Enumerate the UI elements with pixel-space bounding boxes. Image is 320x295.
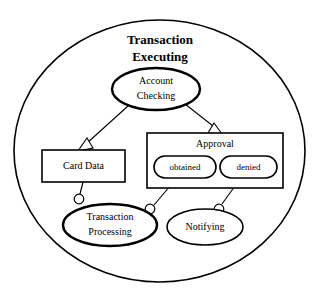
- transaction-processing-label-line2: Processing: [88, 226, 131, 237]
- diagram-title-line1: Transaction: [127, 32, 194, 47]
- transaction-processing-label-line1: Transaction: [87, 211, 134, 222]
- card-data-label: Card Data: [63, 160, 104, 171]
- account-checking-label-line2: Checking: [137, 90, 175, 101]
- node-obtained[interactable]: obtained: [154, 156, 216, 178]
- account-checking-shape[interactable]: [112, 68, 200, 110]
- transaction-processing-shape[interactable]: [63, 204, 157, 246]
- approval-label: Approval: [196, 138, 234, 149]
- node-denied[interactable]: denied: [220, 156, 277, 178]
- account-checking-label-line1: Account: [139, 75, 173, 86]
- node-notifying[interactable]: Notifying: [167, 209, 243, 245]
- node-card-data[interactable]: Card Data: [42, 150, 125, 182]
- notifying-label: Notifying: [186, 221, 225, 232]
- denied-label: denied: [237, 162, 261, 172]
- ball-socket-icon: [74, 194, 84, 204]
- diagram-title-line2: Executing: [132, 49, 188, 64]
- node-transaction-processing[interactable]: Transaction Processing: [63, 204, 157, 246]
- diagram-root: Transaction Executing: [0, 0, 320, 295]
- node-approval[interactable]: Approval obtained denied: [147, 133, 283, 188]
- node-account-checking[interactable]: Account Checking: [112, 68, 200, 110]
- diagram-canvas: Transaction Executing: [0, 0, 320, 295]
- obtained-label: obtained: [170, 162, 201, 172]
